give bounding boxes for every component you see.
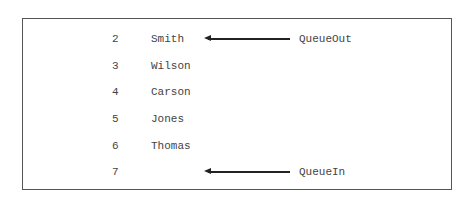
row-value: Wilson [151, 58, 191, 74]
queue-row: 3 Wilson [0, 58, 474, 74]
row-value: Smith [151, 31, 184, 47]
row-index: 5 [112, 111, 119, 127]
row-value: Thomas [151, 138, 191, 154]
row-value: Jones [151, 111, 184, 127]
row-index: 7 [112, 164, 119, 180]
row-index: 2 [112, 31, 119, 47]
queue-out-label: QueueOut [299, 31, 352, 47]
queue-row: 2 Smith QueueOut [0, 31, 474, 47]
row-value: Carson [151, 84, 191, 100]
left-arrow-icon [204, 38, 290, 40]
row-index: 3 [112, 58, 119, 74]
left-arrow-icon [204, 171, 290, 173]
queue-row: 5 Jones [0, 111, 474, 127]
queue-row: 6 Thomas [0, 138, 474, 154]
row-index: 6 [112, 138, 119, 154]
queue-row: 7 QueueIn [0, 164, 474, 180]
queue-in-label: QueueIn [299, 164, 345, 180]
row-index: 4 [112, 84, 119, 100]
queue-row: 4 Carson [0, 84, 474, 100]
